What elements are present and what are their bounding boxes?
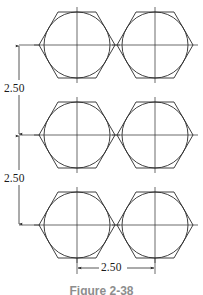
dimension-value-horizontal-bottom: 2.50: [101, 262, 122, 274]
figure-sheet: 2.50 2.50 2.50 Figure 2-38: [0, 0, 203, 295]
figure-caption: Figure 2-38: [0, 285, 203, 295]
dimension-value-vertical-top: 2.50: [4, 83, 25, 95]
hex-circle-r2c2: [112, 97, 198, 173]
hex-circle-r3c1: [34, 187, 120, 263]
hex-circle-r3c2: [112, 187, 198, 263]
hex-circle-r2c1: [34, 97, 120, 173]
engineering-drawing-canvas: [0, 0, 203, 295]
hex-circle-r1c1: [34, 7, 120, 83]
hex-circle-r1c2: [112, 7, 198, 83]
dimension-value-vertical-bottom: 2.50: [4, 173, 25, 185]
